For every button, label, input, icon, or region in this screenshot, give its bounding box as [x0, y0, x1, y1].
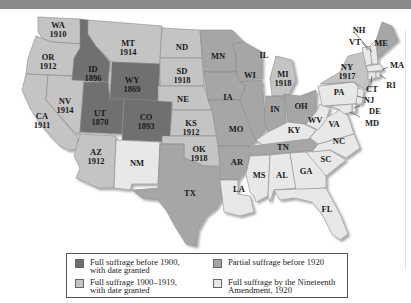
svg-text:ND: ND [176, 42, 188, 52]
svg-text:MD: MD [365, 118, 379, 128]
svg-text:1896: 1896 [85, 73, 102, 83]
svg-text:1912: 1912 [40, 61, 57, 71]
svg-text:IL: IL [260, 50, 269, 60]
legend-label: Full suffrage by the NineteenthAmendment… [228, 278, 335, 295]
svg-text:NM: NM [130, 158, 144, 168]
svg-text:VA: VA [328, 119, 340, 129]
svg-text:1914: 1914 [57, 105, 75, 115]
svg-text:OH: OH [294, 101, 308, 111]
svg-text:MO: MO [229, 124, 244, 134]
svg-text:NE: NE [177, 94, 189, 104]
legend-item-partial-before-1920: Partial suffrage before 1920 [213, 258, 324, 268]
svg-text:1870: 1870 [92, 117, 109, 127]
legend-label: Full suffrage 1900–1919,with date grante… [90, 278, 177, 295]
legend-item-full-before-1900: Full suffrage before 1900,with date gran… [75, 258, 180, 275]
svg-text:1917: 1917 [339, 71, 357, 81]
legend-label: Full suffrage before 1900,with date gran… [90, 258, 180, 275]
svg-text:FL: FL [322, 204, 333, 214]
svg-text:1893: 1893 [138, 121, 155, 131]
svg-text:1912: 1912 [183, 127, 200, 137]
svg-text:1918: 1918 [191, 153, 208, 163]
legend-item-nineteenth-amendment: Full suffrage by the NineteenthAmendment… [213, 278, 335, 295]
svg-text:MS: MS [253, 170, 266, 180]
svg-text:PA: PA [334, 87, 346, 97]
legend-item-full-1900-1919: Full suffrage 1900–1919,with date grante… [75, 278, 177, 295]
svg-text:TX: TX [184, 188, 197, 198]
map-legend: Full suffrage before 1900,with date gran… [66, 253, 348, 298]
svg-text:SC: SC [321, 154, 332, 164]
svg-text:IN: IN [270, 104, 280, 114]
svg-text:TN: TN [277, 142, 290, 152]
svg-text:1918: 1918 [174, 75, 191, 85]
svg-text:GA: GA [300, 166, 314, 176]
legend-swatch-dark [75, 259, 84, 268]
svg-text:WV: WV [308, 115, 324, 125]
svg-text:1912: 1912 [88, 156, 105, 166]
svg-text:1910: 1910 [50, 29, 67, 39]
svg-text:DE: DE [369, 106, 381, 116]
svg-text:1869: 1869 [124, 84, 141, 94]
svg-text:ME: ME [374, 38, 388, 48]
svg-text:NC: NC [333, 136, 345, 146]
legend-swatch-light [213, 279, 222, 288]
svg-text:1911: 1911 [34, 120, 51, 130]
svg-text:NH: NH [353, 25, 366, 35]
svg-text:1914: 1914 [120, 47, 138, 57]
svg-text:MA: MA [390, 60, 405, 70]
legend-swatch-partial [213, 259, 222, 268]
state-FL[interactable] [274, 188, 348, 240]
svg-text:IA: IA [223, 92, 233, 102]
svg-text:RI: RI [386, 80, 396, 90]
legend-swatch-medium [75, 279, 84, 288]
svg-text:LA: LA [233, 184, 246, 194]
legend-label: Partial suffrage before 1920 [228, 258, 324, 266]
svg-text:AL: AL [276, 170, 288, 180]
svg-text:VT: VT [349, 37, 361, 47]
state-RI[interactable] [376, 72, 380, 78]
svg-text:NJ: NJ [364, 95, 375, 105]
svg-text:MN: MN [211, 51, 226, 61]
svg-text:WI: WI [244, 70, 257, 80]
svg-text:AR: AR [231, 157, 244, 167]
svg-text:1918: 1918 [275, 78, 292, 88]
svg-text:CT: CT [366, 84, 378, 94]
svg-text:KY: KY [288, 125, 301, 135]
